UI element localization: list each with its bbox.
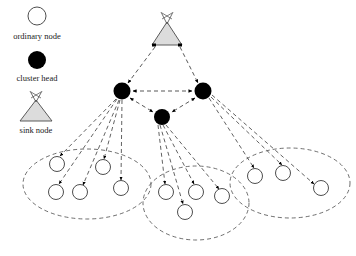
sink-base-right-foot <box>178 44 182 47</box>
link-sink-ch-left <box>128 47 155 83</box>
ordinary-node[interactable] <box>215 189 230 204</box>
sink-to-head-links <box>128 47 198 83</box>
ordinary-node[interactable] <box>114 181 129 196</box>
cluster-boundaries <box>23 148 350 240</box>
link-ch-right-n12 <box>212 95 314 184</box>
ordinary-node[interactable] <box>96 160 111 175</box>
link-ch-left-ch-middle <box>130 98 153 112</box>
ordinary-node[interactable] <box>248 169 263 184</box>
ordinary-node[interactable] <box>50 157 65 172</box>
sink-triangle <box>152 22 182 45</box>
cluster-left-boundary <box>23 149 151 219</box>
sink-node[interactable] <box>152 12 182 47</box>
link-ch-left-n5 <box>121 100 122 180</box>
sink-base-left-foot <box>152 44 156 47</box>
cluster-head-node-right[interactable] <box>195 83 212 100</box>
network-topology-diagram: ordinary node cluster head sink node <box>0 0 356 256</box>
link-sink-ch-right <box>180 47 198 83</box>
cluster-middle-boundary <box>143 166 249 240</box>
cluster-head-nodes <box>114 83 212 126</box>
ordinary-node[interactable] <box>314 181 329 196</box>
legend-ordinary-node-label: ordinary node <box>13 31 61 41</box>
link-ch-middle-n7 <box>163 125 194 184</box>
legend-cluster-head-label: cluster head <box>17 73 59 83</box>
link-ch-right-n10 <box>209 98 254 168</box>
ordinary-node[interactable] <box>49 185 64 200</box>
ordinary-node[interactable] <box>189 185 204 200</box>
legend-sink-node-label: sink node <box>20 125 53 135</box>
ordinary-node[interactable] <box>178 205 193 220</box>
cluster-head-node-middle[interactable] <box>154 109 170 125</box>
ordinary-nodes <box>49 157 329 220</box>
legend-cluster-head-icon <box>28 51 46 69</box>
link-ch-left-n2 <box>104 100 120 159</box>
ordinary-node[interactable] <box>159 185 174 200</box>
topology-canvas: ordinary node cluster head sink node <box>0 0 356 256</box>
legend: ordinary node cluster head sink node <box>13 7 61 135</box>
head-to-head-links <box>130 91 195 112</box>
ordinary-node[interactable] <box>73 185 88 200</box>
legend-ordinary-node-icon <box>28 7 46 25</box>
legend-sink-triangle-icon <box>20 100 52 121</box>
cluster-head-node-left[interactable] <box>114 83 131 100</box>
ordinary-node[interactable] <box>276 166 291 181</box>
link-ch-right-ch-middle <box>172 98 195 112</box>
link-ch-right-n11 <box>211 97 282 165</box>
link-ch-middle-n8 <box>166 125 219 189</box>
